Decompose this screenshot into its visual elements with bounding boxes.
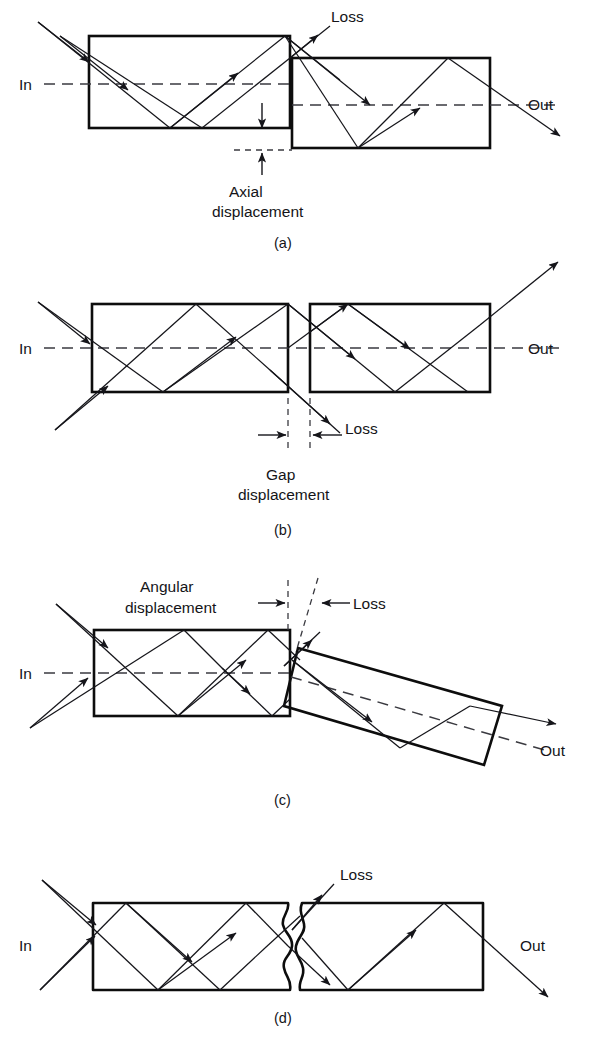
figure-root: In Out Loss Axial displacement (a) (0, 0, 611, 1037)
panel-a-ray-up-a (170, 36, 285, 128)
panel-a-displacement-label-line1: Axial (229, 183, 263, 200)
panel-a-input-ray (38, 22, 170, 128)
panel-d-in-label: In (19, 937, 32, 954)
panel-d-loss-ray (292, 884, 334, 930)
panel-a-out-label: Out (528, 96, 554, 113)
panel-c-ang-leader-tilted (296, 578, 318, 652)
panel-d-ray-up (158, 903, 246, 990)
panel-a-transmitted-head (285, 36, 370, 105)
panel-a-right-up-head (358, 108, 420, 148)
panel-b-ray1-up2 (395, 325, 480, 392)
panel-a-loss-label: Loss (331, 8, 364, 25)
panel-a: In Out Loss Axial displacement (a) (19, 8, 560, 251)
panel-d-transmit (302, 938, 348, 990)
panel-c-caption: (c) (274, 792, 291, 808)
panel-c-ray1-up-head (178, 660, 246, 716)
panel-c: In Out Loss Angular displacement (c) (19, 578, 566, 808)
panel-b-in-label: In (19, 340, 32, 357)
panel-a-right-up (358, 58, 448, 148)
panel-a-ray2 (60, 36, 202, 128)
panel-b-output-ray (480, 262, 558, 325)
panel-d-ray2-down (126, 903, 220, 990)
panel-b-out-label: Out (528, 340, 554, 357)
panel-d-right-up (348, 903, 444, 990)
panel-b-input-ray1 (38, 302, 163, 392)
panel-a-displacement-label-line2: displacement (212, 203, 304, 220)
panel-c-out-label: Out (540, 742, 566, 759)
panel-c-displacement-label-line1: Angular (140, 578, 193, 595)
panel-b-displacement-label-line2: displacement (238, 486, 330, 503)
panel-a-ray2-up (202, 58, 290, 128)
panel-b-displacement-label-line1: Gap (266, 466, 295, 483)
panel-c-tilted-bounce (400, 706, 470, 748)
panel-b-loss-ray (270, 370, 340, 433)
panel-c-input-ray2 (30, 630, 184, 728)
panel-c-output-ray (470, 706, 556, 724)
panel-a-ray2-head (60, 36, 128, 90)
panel-c-displacement-label-line2: displacement (125, 599, 217, 616)
panel-d-caption: (d) (274, 1010, 292, 1026)
panel-d-input-ray-head (42, 880, 96, 925)
panel-b-loss-label: Loss (345, 420, 378, 437)
panel-d-out-label: Out (520, 937, 546, 954)
panel-d-ray2-up-a (220, 948, 265, 990)
panel-b-ray2-down (196, 304, 270, 370)
panel-c-in-label: In (19, 665, 32, 682)
panel-d-left-fiber (93, 903, 292, 990)
panel-d-input-ray2 (40, 903, 126, 990)
panel-d: In Out Loss (d) (19, 866, 548, 1026)
optical-joint-loss-figure: In Out Loss Axial displacement (a) (0, 0, 611, 1037)
panel-d-loss-label: Loss (340, 866, 373, 883)
panel-c-input-ray2-head (30, 678, 88, 728)
panel-d-right-fiber (296, 903, 483, 990)
panel-b: In Out Loss Gap displacement (b) (19, 262, 560, 538)
panel-a-caption: (a) (274, 235, 292, 251)
panel-a-transmitted (285, 36, 358, 148)
panel-c-loss-label: Loss (353, 595, 386, 612)
panel-b-right-up (310, 304, 348, 332)
panel-a-in-label: In (19, 76, 32, 93)
panel-a-right-fiber (292, 58, 490, 148)
panel-b-input-ray2 (55, 304, 196, 430)
panel-b-caption: (b) (274, 522, 292, 538)
panel-c-ray2-down (222, 668, 272, 716)
panel-d-transmit-head (288, 946, 330, 985)
panel-c-ray2-down-a (184, 630, 222, 668)
panel-d-input-ray (42, 880, 158, 990)
